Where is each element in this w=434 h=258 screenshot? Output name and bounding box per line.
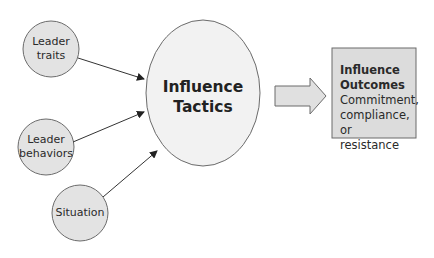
block-arrow-icon: [275, 78, 326, 114]
output-title-line-1: Influence: [340, 63, 418, 78]
output-body-line-3: resistance: [340, 138, 418, 153]
label-situation: Situation: [50, 206, 110, 220]
output-box-text: Influence Outcomes Commitment, complianc…: [340, 63, 418, 153]
output-body-line-1: Commitment,: [340, 93, 418, 108]
label-leader-behaviors: Leader behaviors: [16, 133, 76, 161]
arrow-situation-to-tactics: [103, 151, 157, 197]
output-title-line-2: Outcomes: [340, 78, 418, 93]
label-influence-tactics: Influence Tactics: [153, 77, 253, 117]
arrow-traits-to-tactics: [78, 58, 144, 79]
arrow-behaviors-to-tactics: [73, 112, 144, 142]
output-body-line-2: compliance, or: [340, 108, 418, 138]
label-leader-traits: Leader traits: [23, 35, 79, 63]
